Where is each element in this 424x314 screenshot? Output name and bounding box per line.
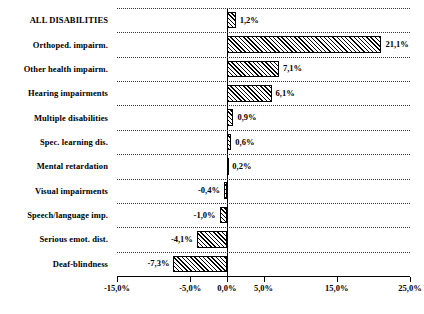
category-label: Spec. learning dis.: [0, 130, 113, 154]
gridline: [117, 57, 410, 58]
x-axis-endcap: [117, 277, 118, 282]
x-axis-tick: [190, 277, 191, 282]
x-axis-tick-label: -15,0%: [104, 283, 130, 293]
bar: [227, 134, 231, 151]
bar: [173, 256, 226, 273]
bar-value-label: 0,9%: [237, 113, 256, 122]
category-label: Hearing impairments: [0, 81, 113, 105]
category-label: Other health impairm.: [0, 57, 113, 81]
bar: [227, 36, 382, 53]
plot-area: 1,2%21,1%7,1%6,1%0,9%0,6%0,2%-0,4%-1,0%-…: [117, 8, 410, 276]
x-axis-tick-label: 0,0%: [217, 283, 236, 293]
x-axis-tick-label: -5,0%: [179, 283, 201, 293]
x-axis-tick-label: 25,0%: [398, 283, 421, 293]
gridline: [117, 32, 410, 33]
gridline: [117, 105, 410, 106]
category-label: Multiple disabilities: [0, 105, 113, 129]
bar-value-label: -1,0%: [194, 211, 216, 220]
category-label: ALL DISABILITIES: [0, 8, 113, 32]
bar-value-label: 21,1%: [385, 40, 408, 49]
bar-value-label: 0,6%: [235, 138, 254, 147]
x-axis-tick: [264, 277, 265, 282]
bar: [224, 182, 227, 199]
x-axis-endcap: [410, 277, 411, 282]
x-axis-tick-label: 5,0%: [254, 283, 273, 293]
bar: [227, 85, 272, 102]
category-label: Orthoped. impairm.: [0, 32, 113, 56]
bar: [227, 61, 279, 78]
gridline: [117, 252, 410, 253]
x-axis-tick: [337, 277, 338, 282]
bar-value-label: -7,3%: [147, 259, 169, 268]
gridline: [117, 8, 410, 9]
bar-chart: ALL DISABILITIESOrthoped. impairm.Other …: [0, 0, 424, 314]
bar-value-label: 6,1%: [276, 89, 295, 98]
category-label: Visual impairments: [0, 179, 113, 203]
category-label: Serious emot. dist.: [0, 227, 113, 251]
gridline: [117, 154, 410, 155]
bar-value-label: -4,1%: [171, 235, 193, 244]
gridline: [117, 203, 410, 204]
gridline: [117, 227, 410, 228]
x-axis-tick: [227, 277, 228, 282]
gridline: [117, 81, 410, 82]
bar-value-label: 0,2%: [232, 162, 251, 171]
bar-value-label: -0,4%: [198, 186, 220, 195]
bar: [227, 158, 229, 175]
bar-value-label: 7,1%: [283, 64, 302, 73]
gridline: [117, 130, 410, 131]
bar: [220, 207, 227, 224]
x-axis-line: [117, 276, 410, 277]
bar: [227, 12, 236, 29]
category-label: Speech/language imp.: [0, 203, 113, 227]
x-axis-tick-label: 15,0%: [325, 283, 348, 293]
bar: [227, 109, 234, 126]
bar-value-label: 1,2%: [240, 16, 259, 25]
category-label: Deaf-blindness: [0, 252, 113, 276]
category-label: Mental retardation: [0, 154, 113, 178]
gridline: [117, 179, 410, 180]
category-axis-labels: ALL DISABILITIESOrthoped. impairm.Other …: [0, 8, 113, 276]
bar: [197, 231, 227, 248]
